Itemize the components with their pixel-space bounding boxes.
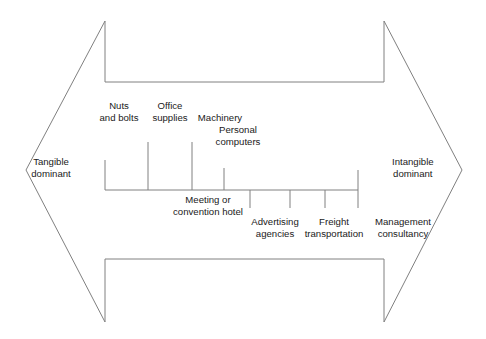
- label-intangible-dominant: Intangible dominant: [392, 156, 434, 179]
- label-machinery: Machinery: [198, 112, 242, 124]
- label-personal-computers: Personal computers: [216, 124, 261, 147]
- label-office-supplies: Office supplies: [152, 100, 187, 123]
- label-advertising-agencies: Advertising agencies: [251, 216, 298, 239]
- tangibility-spectrum-figure: Tangible dominant Intangible dominant Nu…: [0, 0, 486, 339]
- label-management-consultancy: Management consultancy: [375, 216, 431, 239]
- label-nuts-and-bolts: Nuts and bolts: [100, 100, 139, 123]
- label-tangible-dominant: Tangible dominant: [31, 156, 70, 179]
- label-freight-transportation: Freight transportation: [305, 216, 364, 239]
- label-meeting-or-convention-hotel: Meeting or convention hotel: [173, 194, 243, 217]
